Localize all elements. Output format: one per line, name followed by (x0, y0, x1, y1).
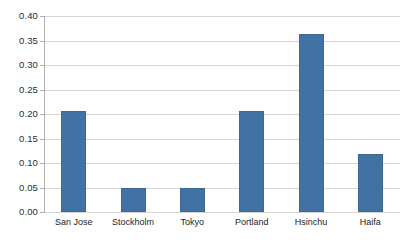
bar-chart: 0.000.050.100.150.200.250.300.350.40 San… (0, 0, 413, 245)
y-axis-tick-label: 0.15 (2, 134, 38, 144)
y-axis-tick (40, 90, 44, 91)
y-axis-tick-label: 0.40 (2, 11, 38, 21)
y-axis-tick-label: 0.05 (2, 183, 38, 193)
y-axis-tick (40, 212, 44, 213)
y-axis-tick (40, 16, 44, 17)
bars-layer (44, 16, 400, 212)
x-axis-labels: San JoseStockholmTokyoPortlandHsinchuHai… (44, 216, 400, 236)
y-axis-tick-label: 0.30 (2, 60, 38, 70)
y-axis-tick-label: 0.00 (2, 207, 38, 217)
y-axis-tick (40, 188, 44, 189)
y-axis-tick-label: 0.20 (2, 109, 38, 119)
bar (299, 34, 324, 212)
x-axis-tick-label: Stockholm (103, 216, 162, 228)
x-axis-tick-label: Portland (222, 216, 281, 228)
x-axis-tick-label: Tokyo (163, 216, 222, 228)
y-axis-tick-label: 0.35 (2, 36, 38, 46)
y-axis-tick (40, 65, 44, 66)
bar (121, 188, 146, 212)
y-axis-tick-label: 0.10 (2, 158, 38, 168)
y-axis-tick-label: 0.25 (2, 85, 38, 95)
x-axis-tick-label: Hsinchu (281, 216, 340, 228)
y-axis-tick (40, 41, 44, 42)
bar (61, 111, 86, 212)
gridline (44, 212, 400, 213)
y-axis-labels: 0.000.050.100.150.200.250.300.350.40 (0, 0, 38, 245)
x-axis-tick-label: Haifa (341, 216, 400, 228)
y-axis-tick (40, 163, 44, 164)
y-axis-tick (40, 139, 44, 140)
bar (180, 188, 205, 212)
x-axis-tick-label: San Jose (44, 216, 103, 228)
bar (358, 154, 383, 212)
y-axis-tick (40, 114, 44, 115)
bar (239, 111, 264, 212)
